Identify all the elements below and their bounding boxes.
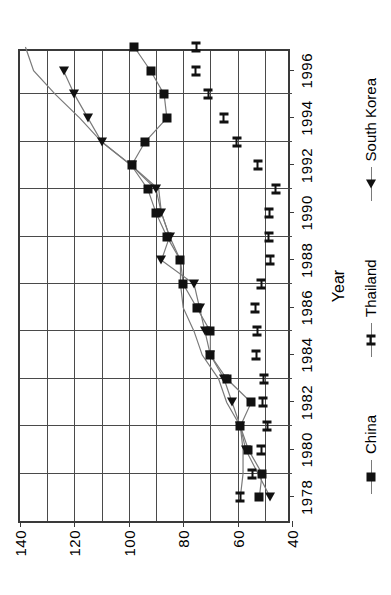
x-marker — [257, 444, 266, 455]
x-axis-tick-label: 1984 — [298, 337, 315, 372]
square-marker — [130, 43, 139, 52]
legend-swatch — [364, 323, 378, 357]
x-marker-bar — [236, 138, 238, 145]
triangle-marker — [59, 66, 69, 75]
triangle-marker — [165, 232, 175, 241]
triangle-marker — [219, 374, 229, 383]
triangle-marker — [195, 303, 205, 312]
square-marker — [160, 90, 169, 99]
x-marker — [257, 279, 266, 290]
x-axis-title: Year — [330, 49, 348, 523]
series-line-thailand — [25, 47, 243, 497]
y-axis-tick — [74, 521, 75, 527]
square-marker — [255, 493, 264, 502]
square-marker — [179, 280, 188, 289]
x-marker-bar — [254, 304, 256, 311]
legend-item-south-korea[interactable]: South Korea — [362, 78, 379, 201]
square-marker — [258, 469, 267, 478]
x-axis-tick-label: 1990 — [298, 195, 315, 230]
x-marker-bar — [239, 494, 241, 501]
x-marker — [259, 373, 268, 384]
y-axis-tick-label: 100 — [120, 530, 137, 557]
triangle-marker — [127, 161, 137, 170]
square-marker — [162, 114, 171, 123]
triangle-marker — [235, 422, 245, 431]
triangle-marker — [156, 256, 166, 265]
x-axis-tick-label: 1996 — [298, 53, 315, 88]
x-marker — [253, 160, 262, 171]
triangle-marker — [156, 208, 166, 217]
x-axis-tick-label: 1994 — [298, 100, 315, 135]
x-marker — [248, 468, 257, 479]
y-axis-tick-label: 120 — [66, 530, 83, 557]
x-marker-bar — [260, 281, 262, 288]
triangle-marker — [189, 280, 199, 289]
x-marker-bar — [223, 115, 225, 122]
triangle-marker — [366, 180, 376, 189]
triangle-marker — [241, 445, 251, 454]
x-marker-bar — [207, 91, 209, 98]
x-marker — [191, 65, 200, 76]
y-axis-tick — [183, 521, 184, 527]
x-marker-bar — [262, 399, 264, 406]
x-marker — [263, 421, 272, 432]
legend-item-label: China — [362, 415, 379, 454]
square-marker — [146, 66, 155, 75]
chart-figure: 406080100120140 197819801982198419861988… — [0, 0, 391, 595]
chart-page: 406080100120140 197819801982198419861988… — [0, 0, 391, 595]
triangle-marker — [97, 137, 107, 146]
y-axis-tick-label: 140 — [12, 530, 29, 557]
legend-item-label: Thailand — [362, 259, 379, 317]
x-marker-bar — [251, 470, 253, 477]
triangle-marker — [151, 185, 161, 194]
x-marker-bar — [195, 44, 197, 51]
x-marker-bar — [256, 328, 258, 335]
x-marker — [219, 113, 228, 124]
x-marker — [264, 231, 273, 242]
x-marker-bar — [195, 67, 197, 74]
x-marker — [192, 42, 201, 53]
square-marker — [366, 473, 375, 482]
y-axis-tick-label: 60 — [229, 530, 246, 548]
x-axis-tick-label: 1986 — [298, 290, 315, 325]
x-marker — [204, 89, 213, 100]
triangle-marker — [69, 90, 79, 99]
square-marker — [141, 137, 150, 146]
legend-item-thailand[interactable]: Thailand — [362, 259, 379, 357]
y-axis-tick — [20, 521, 21, 527]
x-marker — [265, 207, 274, 218]
x-marker-bar — [268, 209, 270, 216]
y-axis-tick-label: 80 — [175, 530, 192, 548]
x-marker-bar — [269, 257, 271, 264]
x-marker-bar — [266, 423, 268, 430]
x-marker-bar — [260, 446, 262, 453]
x-marker-bar — [268, 233, 270, 240]
x-marker — [266, 255, 275, 266]
y-axis-tick-label: 40 — [284, 530, 301, 548]
x-axis-tick-label: 1992 — [298, 148, 315, 183]
x-marker-bar — [257, 162, 259, 169]
x-marker — [366, 334, 375, 345]
square-marker — [247, 398, 256, 407]
x-marker — [251, 302, 260, 313]
x-marker — [252, 350, 261, 361]
legend-swatch — [364, 167, 378, 201]
x-marker — [236, 492, 245, 503]
x-marker-bar — [370, 336, 372, 343]
y-axis-tick — [129, 521, 130, 527]
plot-area: 406080100120140 197819801982198419861988… — [18, 49, 290, 523]
y-axis-tick — [238, 521, 239, 527]
triangle-marker — [265, 493, 275, 502]
triangle-marker — [200, 327, 210, 336]
x-axis-tick-label: 1982 — [298, 385, 315, 420]
triangle-marker — [83, 114, 93, 123]
square-marker — [176, 256, 185, 265]
x-axis-tick-label: 1980 — [298, 432, 315, 467]
chart-legend: ChinaThailandSouth Korea — [362, 49, 379, 523]
triangle-marker — [227, 398, 237, 407]
legend-swatch — [364, 460, 378, 494]
legend-item-label: South Korea — [362, 78, 379, 161]
legend-item-china[interactable]: China — [362, 415, 379, 494]
x-marker-bar — [263, 375, 265, 382]
x-marker — [232, 136, 241, 147]
